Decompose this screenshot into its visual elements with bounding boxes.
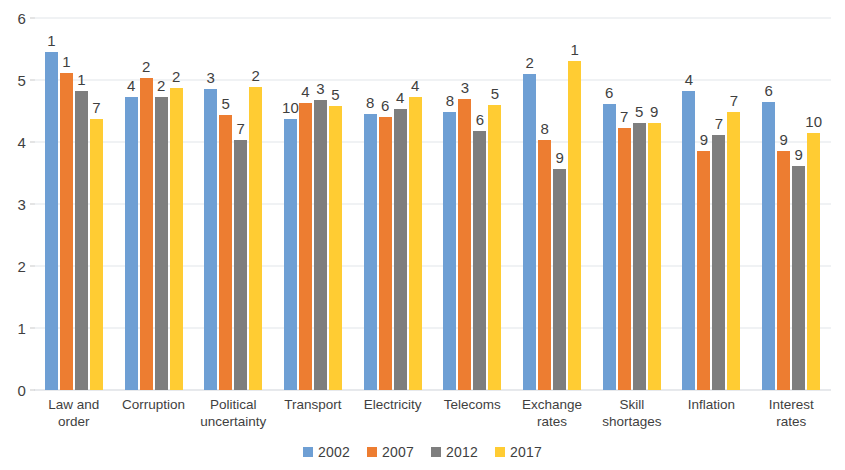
bar-groups: 1117422235721043586448365289167594977699… bbox=[34, 18, 831, 390]
bar-slot: 4 bbox=[125, 18, 138, 390]
bar-value-label: 4 bbox=[127, 78, 135, 93]
bar[interactable] bbox=[443, 112, 456, 390]
bar-value-label: 5 bbox=[635, 104, 643, 119]
x-axis-category-label: Telecoms bbox=[433, 392, 513, 440]
bar-value-label: 4 bbox=[411, 78, 419, 93]
bar[interactable] bbox=[379, 117, 392, 390]
bar[interactable] bbox=[125, 97, 138, 390]
bar-value-label: 6 bbox=[765, 83, 773, 98]
bar-value-label: 5 bbox=[491, 86, 499, 101]
legend-item[interactable]: 2012 bbox=[431, 444, 478, 460]
bar-slot: 2 bbox=[249, 18, 262, 390]
bar[interactable] bbox=[284, 119, 297, 390]
bar-value-label: 1 bbox=[47, 33, 55, 48]
bar[interactable] bbox=[792, 166, 805, 390]
bar[interactable] bbox=[155, 97, 168, 390]
bar[interactable] bbox=[170, 88, 183, 390]
bar[interactable] bbox=[394, 109, 407, 390]
bar[interactable] bbox=[618, 128, 631, 390]
bar[interactable] bbox=[249, 87, 262, 390]
bar-slot: 3 bbox=[204, 18, 217, 390]
bar[interactable] bbox=[727, 112, 740, 390]
legend-item[interactable]: 2007 bbox=[367, 444, 414, 460]
y-axis-tick-label: 0 bbox=[17, 382, 26, 399]
legend-item[interactable]: 2017 bbox=[495, 444, 542, 460]
bar-slot: 7 bbox=[618, 18, 631, 390]
bar[interactable] bbox=[603, 104, 616, 390]
bar[interactable] bbox=[329, 106, 342, 390]
bar[interactable] bbox=[219, 115, 232, 390]
bar[interactable] bbox=[633, 123, 646, 390]
bar-value-label: 6 bbox=[381, 98, 389, 113]
bar-value-label: 7 bbox=[620, 109, 628, 124]
bar[interactable] bbox=[234, 140, 247, 390]
bar[interactable] bbox=[538, 140, 551, 390]
plot-area: 1117422235721043586448365289167594977699… bbox=[34, 18, 831, 390]
bar-value-label: 8 bbox=[540, 121, 548, 136]
bar-value-label: 4 bbox=[301, 84, 309, 99]
bar-slot: 2 bbox=[155, 18, 168, 390]
bar-slot: 4 bbox=[682, 18, 695, 390]
bar-value-label: 1 bbox=[570, 42, 578, 57]
bar-value-label: 1 bbox=[62, 54, 70, 69]
bar-slot: 1 bbox=[75, 18, 88, 390]
bar[interactable] bbox=[762, 102, 775, 390]
bar-group: 8365 bbox=[433, 18, 513, 390]
bar[interactable] bbox=[75, 91, 88, 390]
bar-chart: 0123456 11174222357210435864483652891675… bbox=[0, 0, 845, 470]
bar-value-label: 4 bbox=[396, 90, 404, 105]
bar[interactable] bbox=[45, 52, 58, 390]
bar-slot: 2 bbox=[140, 18, 153, 390]
bar-value-label: 5 bbox=[331, 87, 339, 102]
bar-slot: 10 bbox=[807, 18, 820, 390]
bar[interactable] bbox=[409, 97, 422, 390]
bar-value-label: 2 bbox=[525, 55, 533, 70]
bar[interactable] bbox=[523, 74, 536, 390]
bar[interactable] bbox=[682, 91, 695, 390]
bar[interactable] bbox=[777, 151, 790, 390]
legend-item[interactable]: 2002 bbox=[303, 444, 350, 460]
bar-slot: 1 bbox=[568, 18, 581, 390]
bar-value-label: 3 bbox=[461, 80, 469, 95]
bar[interactable] bbox=[60, 73, 73, 390]
bar[interactable] bbox=[648, 123, 661, 390]
bar[interactable] bbox=[712, 135, 725, 390]
bar[interactable] bbox=[364, 114, 377, 390]
bar-value-label: 10 bbox=[805, 114, 822, 129]
bar[interactable] bbox=[90, 119, 103, 390]
legend-label: 2007 bbox=[382, 444, 414, 460]
bar[interactable] bbox=[299, 103, 312, 390]
bar-slot: 2 bbox=[170, 18, 183, 390]
bar[interactable] bbox=[488, 105, 501, 390]
y-axis-tick-label: 1 bbox=[17, 320, 26, 337]
bar[interactable] bbox=[458, 99, 471, 390]
bar-group: 8644 bbox=[353, 18, 433, 390]
bar-slot: 10 bbox=[284, 18, 297, 390]
bar[interactable] bbox=[697, 151, 710, 390]
bar-value-label: 3 bbox=[207, 70, 215, 85]
y-axis-tick-label: 3 bbox=[17, 196, 26, 213]
bar[interactable] bbox=[568, 61, 581, 390]
chart-legend: 2002200720122017 bbox=[0, 444, 845, 460]
bar[interactable] bbox=[314, 100, 327, 390]
bar-slot: 6 bbox=[473, 18, 486, 390]
bar-value-label: 9 bbox=[555, 150, 563, 165]
bar-value-label: 7 bbox=[715, 116, 723, 131]
bar-slot: 9 bbox=[792, 18, 805, 390]
bar-slot: 1 bbox=[60, 18, 73, 390]
bar-value-label: 7 bbox=[92, 100, 100, 115]
bar-slot: 9 bbox=[777, 18, 790, 390]
bar[interactable] bbox=[204, 89, 217, 390]
bar-slot: 6 bbox=[379, 18, 392, 390]
bar-value-label: 2 bbox=[142, 59, 150, 74]
bar-slot: 8 bbox=[364, 18, 377, 390]
bar[interactable] bbox=[473, 131, 486, 390]
bar[interactable] bbox=[807, 133, 820, 390]
bar[interactable] bbox=[140, 78, 153, 390]
bar-value-label: 2 bbox=[172, 69, 180, 84]
bar[interactable] bbox=[553, 169, 566, 390]
bar-value-label: 8 bbox=[446, 93, 454, 108]
bar-value-label: 6 bbox=[605, 85, 613, 100]
bar-slot: 5 bbox=[219, 18, 232, 390]
bar-slot: 8 bbox=[538, 18, 551, 390]
